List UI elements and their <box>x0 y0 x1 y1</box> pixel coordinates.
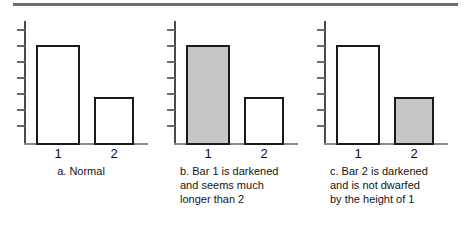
y-tick-a-5 <box>17 61 25 63</box>
chart-panel-b: 1 2 b. Bar 1 is darkened and seems much … <box>156 16 306 226</box>
y-tick-c-6 <box>317 45 325 47</box>
plot-area-b: 1 2 <box>156 16 306 156</box>
panel-caption-a: a. Normal <box>6 164 156 178</box>
y-tick-b-2 <box>167 109 175 111</box>
bar-a-2 <box>94 97 134 145</box>
y-tick-a-7 <box>17 29 25 31</box>
chart-panel-c: 1 2 c. Bar 2 is darkened and is not dwar… <box>306 16 456 226</box>
y-tick-a-6 <box>17 45 25 47</box>
chart-panel-a: 1 2 a. Normal <box>6 16 156 226</box>
y-tick-b-4 <box>167 77 175 79</box>
y-tick-b-6 <box>167 45 175 47</box>
y-tick-b-5 <box>167 61 175 63</box>
panel-caption-b: b. Bar 1 is darkened and seems much long… <box>156 164 282 206</box>
x-tick-label-b-1: 1 <box>188 146 228 162</box>
y-tick-c-5 <box>317 61 325 63</box>
y-tick-c-3 <box>317 93 325 95</box>
y-tick-c-7 <box>317 29 325 31</box>
y-tick-a-2 <box>17 109 25 111</box>
plot-area-c: 1 2 <box>306 16 456 156</box>
y-tick-a-1 <box>17 125 25 127</box>
x-tick-label-a-2: 2 <box>94 146 134 162</box>
bar-b-2 <box>244 97 284 145</box>
plot-area-a: 1 2 <box>6 16 156 156</box>
y-tick-b-3 <box>167 93 175 95</box>
panel-caption-c: c. Bar 2 is darkened and is not dwarfed … <box>306 164 432 206</box>
bar-b-1 <box>186 45 230 145</box>
x-tick-label-c-1: 1 <box>338 146 378 162</box>
x-tick-label-a-1: 1 <box>38 146 78 162</box>
y-tick-c-4 <box>317 77 325 79</box>
bar-c-1 <box>336 45 380 145</box>
y-tick-b-7 <box>167 29 175 31</box>
x-tick-label-b-2: 2 <box>244 146 284 162</box>
bar-a-1 <box>36 45 80 145</box>
y-tick-b-1 <box>167 125 175 127</box>
x-tick-label-c-2: 2 <box>394 146 434 162</box>
y-tick-a-4 <box>17 77 25 79</box>
y-tick-a-3 <box>17 93 25 95</box>
top-divider-rule <box>13 3 458 6</box>
y-tick-c-1 <box>317 125 325 127</box>
y-tick-c-2 <box>317 109 325 111</box>
bar-c-2 <box>394 97 434 145</box>
